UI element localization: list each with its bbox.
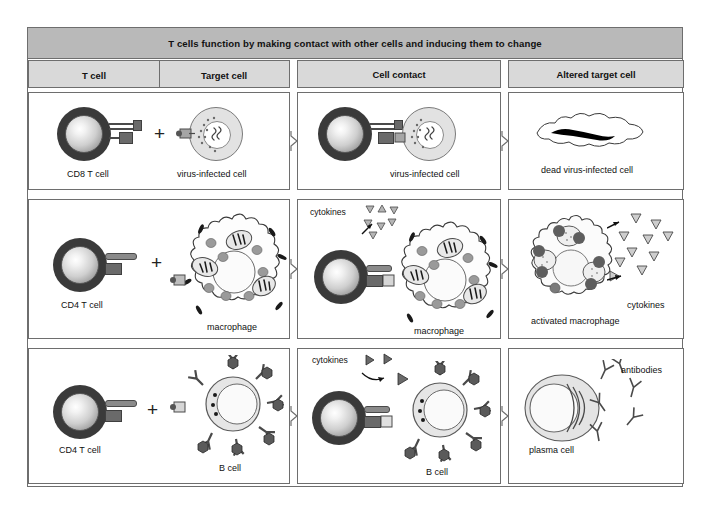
caption-b-cell: B cell [219,463,241,473]
caption-plasma-cell: plasma cell [529,445,574,455]
b-cell-contact-body [388,361,492,465]
figure-title-band: T cells function by making contact with … [28,28,682,59]
figure-title: T cells function by making contact with … [168,38,542,49]
row-bcell-left-panel: + [28,348,290,484]
cd4-t-cell-nucleus [61,246,99,284]
row-cd8-plus-sign: + [154,123,165,145]
label-cytokines-activated-macrophage: cytokines [627,300,665,310]
cd8-contact-tcr-stalk-upper [370,123,396,125]
row-cd8-contact-panel: virus-infected cell [297,92,501,190]
caption-virus-infected-cell: virus-infected cell [177,169,247,179]
caption-macrophage: macrophage [207,322,257,332]
cd8-coreceptor-head [119,132,133,144]
cd8-t-cell-body [57,107,111,161]
row-bcell-plus-sign: + [147,399,158,421]
macrophage-contact-body [390,218,500,330]
cd4-bcell-contact-tcr-head [364,416,381,428]
cd8-t-cell-contact-body [318,107,372,161]
row-macrophage-altered-panel: activated macrophage cytokines [508,199,684,339]
virus-infected-cell-contact-detail [402,107,456,161]
caption-macrophage-contact: macrophage [414,326,464,336]
cd8-contact-tcr-stalk-lower [370,128,396,130]
row-bcell-contact-panel: cytokines [297,348,501,484]
cd4-contact-coreceptor-bar [366,265,392,272]
column-header-cell-contact: Cell contact [297,60,501,88]
activated-macrophage-body [521,212,621,316]
cd4-bcell-tcr-head [105,410,122,422]
macrophage-mhc-peptide-complex [169,272,189,288]
label-antibodies: antibodies [621,365,662,375]
virus-infected-cell-detail [189,107,243,161]
caption-b-cell-contact: B cell [426,467,448,477]
label-cytokines-contact-bcell: cytokines [312,355,348,365]
cd4-t-cell-bcell-body [53,385,107,439]
cd4-t-cell-bcell-nucleus [61,393,99,431]
row-macrophage-left-panel: + [28,199,290,339]
caption-cd8-t-cell: CD8 T cell [67,169,109,179]
cd4-bcell-coreceptor-bar [105,400,137,407]
cd8-t-cell-nucleus [65,115,103,153]
column-header-altered-target-cell-label: Altered target cell [556,69,635,80]
row-cd8-left-panel: + CD8 T c [28,92,290,190]
caption-cd4-t-cell-macrophage-row: CD4 T cell [61,300,103,310]
cd4-tcr-head [105,263,122,275]
cd4-t-cell-contact-macrophage-body [314,250,368,304]
cd4-contact-tcr-head [366,275,383,287]
b-cell-body [181,355,285,459]
caption-activated-macrophage: activated macrophage [531,316,620,326]
virus-infected-cell-contact-body [402,107,456,161]
cd4-t-cell-body [53,238,107,292]
cd8-contact-coreceptor-head [378,132,394,144]
cd4-coreceptor-bar [105,253,137,260]
cd8-tcr-stalk-lower [109,128,135,130]
b-cell-mhc-peptide-complex [169,399,189,415]
caption-cd4-t-cell-bcell-row: CD4 T cell [59,445,101,455]
caption-virus-infected-cell-contact: virus-infected cell [390,169,460,179]
row-cd8-altered-panel: dead virus-infected cell [508,92,684,190]
mhc-peptide-complex-contact [394,131,408,145]
column-header-divider [159,60,160,88]
cd4-t-cell-contact-macrophage-nucleus [322,258,360,296]
cd4-t-cell-contact-bcell-body [312,391,366,445]
cd4-t-cell-contact-bcell-nucleus [320,399,358,437]
row-macrophage-contact-panel: cytokines [297,199,501,339]
column-header-altered-target-cell: Altered target cell [508,60,684,88]
cytokine-group-activated-macrophage [607,210,677,298]
cd8-tcr-head [133,120,142,131]
cd4-bcell-contact-coreceptor-bar [364,406,390,413]
label-cytokines-contact-macrophage: cytokines [310,207,346,217]
cd8-t-cell-contact-nucleus [326,115,364,153]
column-header-t-cell: T cell [82,70,106,81]
column-header-target-cell: Target cell [201,70,247,81]
cd8-tcr-stalk-upper [109,123,135,125]
macrophage-body [179,210,289,322]
figure-container: T cells function by making contact with … [27,27,683,487]
column-header-cell-contact-label: Cell contact [372,69,425,80]
dead-virus-infected-cell-shape [525,103,665,163]
virus-infected-cell-body [189,107,243,161]
row-bcell-altered-panel: plasma cell antibodies [508,348,684,484]
row-macrophage-plus-sign: + [151,252,162,274]
caption-dead-virus-infected-cell: dead virus-infected cell [541,165,633,175]
mhc-peptide-complex [175,126,195,142]
